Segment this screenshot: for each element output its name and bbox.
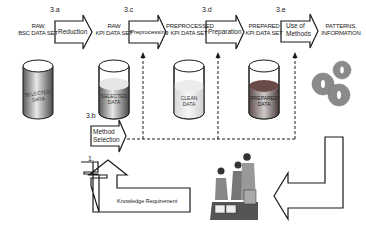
stage-label-line2: KPI DATA SET [243,30,285,37]
raw-kpi-cylinder [99,60,129,119]
stage-label-prepared-kpi: PREPARED KPI DATA SET [243,23,285,37]
cylinder-text-raw-kpi: SELECTED DATA [100,93,128,105]
method-selection-label: Method Selection [93,128,120,144]
arrow-label-line1: Method [93,128,120,136]
knowledge-requirement-label: Knowledge Requirement [117,197,177,205]
stage-label-line1: PATTERNS, [318,23,364,30]
return-arrow-shape [274,137,343,219]
cylinder-text-prepared: PREPARED DATA [250,95,278,107]
preprocessed-kpi-cylinder [174,60,204,119]
stage-label-line2: BSC DATA SET [14,30,62,37]
reduction-arrow-label: Reduction [58,28,87,36]
preprocessing-arrow-label: Preprocessing [130,28,168,36]
use-of-methods-arrow-label: Use of Methods [286,22,311,38]
step-3b: 3.b [86,112,96,120]
cylinder-text-line2: DATA [175,101,203,107]
stage-label-line2: KPI DATA SET [166,30,212,37]
step-1: 1. [88,155,94,163]
step-3a: 3.a [50,6,60,14]
preparation-arrow-label: Preparation [208,28,242,36]
step-3e: 3.e [276,6,286,14]
stage-label-preprocessed-kpi: PREPROCESSED KPI DATA SET [166,23,212,37]
cylinder-text-line2: DATA [100,99,128,105]
cylinder-text-line2: DATA [250,101,278,107]
stage-label-line1: RAW [14,23,62,30]
stage-label-line2: INFORMATION [318,30,364,37]
dashed-arrowheads [141,52,298,58]
stage-label-line1: PREPARED [243,23,285,30]
arrow-label-line1: Use of [286,22,311,30]
prepared-kpi-cylinder [249,60,279,119]
gears-icon [312,61,351,106]
stage-label-line1: PREPROCESSED [166,23,212,30]
step-3c: 3.c [124,6,133,14]
arrow-label-line2: Selection [93,136,120,144]
arrow-label-line2: Methods [286,30,311,38]
cylinder-text-preprocessed: CLEAN DATA [175,95,203,107]
step-3d: 3.d [202,6,212,14]
stage-label-raw-bsc: RAW BSC DATA SET [14,23,62,37]
team-meeting-icon [210,153,258,220]
stage-label-patterns: PATTERNS, INFORMATION [318,23,364,37]
